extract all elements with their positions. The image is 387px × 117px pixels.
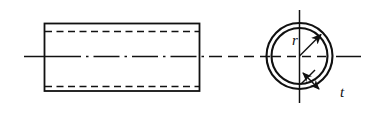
radius-label: r bbox=[292, 32, 298, 48]
thickness-label: t bbox=[340, 84, 345, 100]
radius-leader-line bbox=[300, 35, 322, 57]
tube-drawing-figure: r t bbox=[0, 0, 387, 117]
radius-dimension-group: r bbox=[292, 32, 321, 56]
engineering-drawing-canvas: r t bbox=[0, 0, 387, 117]
thickness-dimension-group: t bbox=[301, 70, 345, 100]
